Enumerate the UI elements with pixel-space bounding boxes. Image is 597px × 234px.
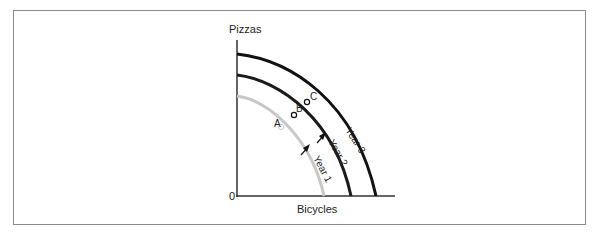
ppf-diagram: Pizzas 0 Bicycles A B C Year 1 Year 2 Ye… [0,0,597,234]
curve-year-3 [237,54,376,196]
curve-label-year-3: Year 3 [343,125,368,155]
shift-arrow-2-icon [317,132,326,143]
curve-label-year-2: Year 2 [326,138,350,169]
curve-year-1 [237,96,324,196]
y-axis-label: Pizzas [229,23,262,35]
point-c-marker [304,99,309,104]
point-c-label: C [310,91,317,102]
point-a-label: A [274,118,281,129]
point-b-label: B [296,103,303,114]
origin-label: 0 [229,190,235,202]
x-axis-label: Bicycles [297,203,338,215]
